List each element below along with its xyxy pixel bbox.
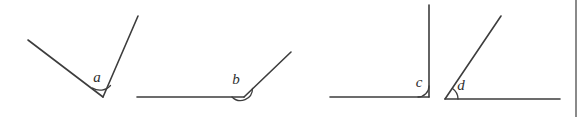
angle-group-b: b	[137, 52, 291, 101]
angle-a-ray-right	[103, 16, 138, 97]
angle-b-label: b	[232, 71, 240, 87]
angle-b-arc	[232, 89, 253, 101]
angle-group-c: c	[330, 5, 429, 97]
angle-a-ray-left	[28, 40, 103, 97]
angle-c-label: c	[416, 74, 423, 90]
angle-a-label: a	[93, 69, 101, 85]
angles-figure: a b c d	[0, 0, 583, 117]
angle-d-label: d	[457, 77, 465, 93]
angle-b-ray-diagonal	[244, 52, 291, 97]
angle-group-a: a	[28, 16, 138, 97]
angles-svg: a b c d	[0, 0, 583, 117]
angle-d-ray-diagonal	[445, 16, 501, 99]
angle-group-d: d	[445, 16, 560, 99]
